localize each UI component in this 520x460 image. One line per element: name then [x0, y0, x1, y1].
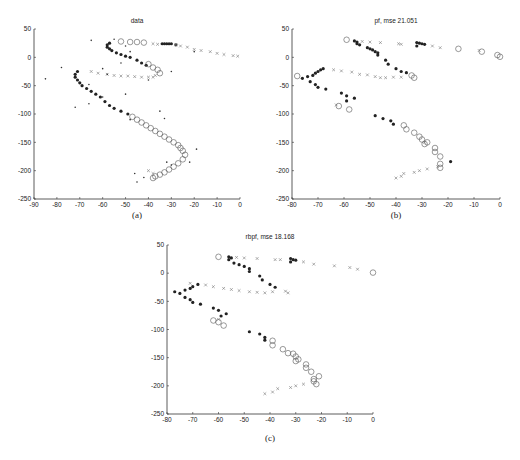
data-point-circle: [216, 254, 222, 260]
data-point-cross: [236, 55, 239, 58]
data-point-cross: [243, 257, 246, 260]
data-point-cross: [400, 76, 403, 79]
data-point-star: [129, 56, 132, 59]
data-point-cross: [238, 289, 241, 292]
y-tick-label: 0: [160, 269, 164, 276]
data-point-star: [263, 336, 266, 339]
data-point-star: [76, 70, 79, 73]
data-point-star: [243, 265, 246, 268]
data-point-star: [289, 260, 292, 263]
y-tick-label: 0: [27, 54, 31, 61]
figure: data-90-80-70-60-50-40-30-20-100500-50-1…: [0, 0, 520, 460]
data-point-star: [258, 332, 261, 335]
y-tick-label: -200: [276, 167, 289, 174]
data-point-cross: [193, 48, 196, 51]
data-point-cross: [369, 41, 372, 44]
data-point-cross: [340, 70, 343, 73]
data-point-dot: [102, 68, 104, 70]
data-point-cross: [216, 52, 219, 55]
x-tick-label: -40: [391, 201, 401, 208]
data-point-cross: [384, 76, 387, 79]
data-point-star: [387, 63, 390, 66]
data-point-dot: [88, 103, 90, 105]
data-point-cross: [439, 46, 442, 49]
data-point-dot: [106, 74, 108, 76]
x-tick-label: -50: [240, 416, 250, 423]
data-point-star: [74, 76, 77, 79]
data-point-star: [248, 330, 251, 333]
data-point-star: [381, 117, 384, 120]
data-point-cross: [379, 41, 382, 44]
data-point-cross: [400, 43, 403, 46]
data-point-star: [274, 286, 277, 289]
y-tick-label: -200: [151, 382, 164, 389]
data-point-dot: [45, 78, 47, 80]
x-tick-label: -40: [144, 201, 154, 208]
data-point-star: [173, 290, 176, 293]
data-point-cross: [133, 75, 136, 78]
data-point-cross: [256, 257, 259, 260]
data-point-dot: [136, 181, 138, 183]
y-tick-label: -100: [18, 110, 31, 117]
data-point-cross: [248, 290, 251, 293]
panel-caption: (b): [391, 210, 402, 220]
data-point-star: [227, 258, 230, 261]
data-point-star: [108, 104, 111, 107]
data-point-dot: [61, 67, 63, 69]
x-tick-label: -60: [339, 201, 349, 208]
y-tick-label: -150: [18, 139, 31, 146]
x-tick-label: -10: [343, 416, 353, 423]
data-point-cross: [209, 50, 212, 53]
data-point-cross: [204, 284, 207, 287]
data-point-star: [196, 283, 199, 286]
data-point-cross: [431, 45, 434, 48]
x-tick-label: -80: [52, 201, 62, 208]
data-point-dot: [159, 110, 161, 112]
data-point-star: [374, 114, 377, 117]
data-point-cross: [271, 391, 274, 394]
data-point-star: [314, 83, 317, 86]
data-point-circle: [127, 39, 133, 45]
y-tick-label: -150: [151, 354, 164, 361]
data-point-star: [140, 61, 143, 64]
data-point-star: [126, 112, 129, 115]
data-point-cross: [289, 386, 292, 389]
y-tick-label: -100: [151, 326, 164, 333]
data-point-star: [124, 55, 127, 58]
data-point-star: [309, 80, 312, 83]
data-point-cross: [179, 45, 182, 48]
data-point-dot: [125, 93, 127, 95]
data-point-star: [248, 270, 251, 273]
y-tick-label: -250: [151, 410, 164, 417]
data-point-dot: [148, 79, 150, 81]
data-point-cross: [333, 264, 336, 267]
data-point-dot: [129, 119, 131, 121]
data-point-cross: [356, 268, 359, 271]
data-point-cross: [374, 75, 377, 78]
data-point-cross: [90, 70, 93, 73]
data-point-cross: [147, 76, 150, 79]
data-point-dot: [166, 161, 168, 163]
data-point-circle: [285, 350, 291, 356]
y-tick-label: 0: [285, 54, 289, 61]
data-point-cross: [154, 74, 157, 77]
data-point-dot: [196, 148, 198, 150]
data-point-star: [376, 53, 379, 56]
x-tick-label: -10: [469, 201, 479, 208]
data-point-star: [80, 84, 83, 87]
data-point-star: [394, 67, 397, 70]
data-point-cross: [358, 73, 361, 76]
data-point-circle: [211, 318, 217, 324]
data-point-dot: [171, 71, 173, 73]
data-point-star: [423, 43, 426, 46]
chart-title: rbpf, mse 18.168: [246, 233, 295, 241]
data-point-dot: [74, 106, 76, 108]
data-point-star: [76, 78, 79, 81]
data-point-cross: [223, 53, 226, 56]
data-point-cross: [256, 291, 259, 294]
data-point-star: [415, 44, 418, 47]
data-point-cross: [426, 168, 429, 171]
data-point-star: [306, 75, 309, 78]
data-point-star: [232, 261, 235, 264]
data-point-cross: [200, 49, 203, 52]
